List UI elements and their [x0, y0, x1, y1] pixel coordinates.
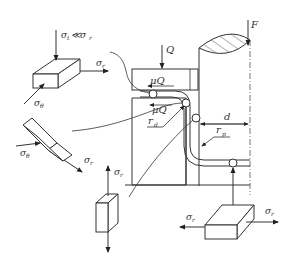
roller-bottom [229, 159, 237, 167]
svg-text:θ: θ [26, 152, 30, 159]
die [125, 98, 250, 185]
svg-text:r: r [89, 34, 93, 41]
svg-text:r: r [192, 216, 196, 223]
blank-holder [132, 69, 198, 90]
wall-element: σ r [96, 166, 124, 252]
svg-text:≪σ: ≪σ [71, 30, 87, 40]
svg-text:μQ: μQ [152, 104, 167, 115]
load-Q-arrow: Q [162, 44, 174, 68]
svg-text:r: r [90, 159, 94, 166]
flange-element: σ t ≪σ r σ r σ θ [24, 30, 108, 109]
punch-radius-label: r p [202, 124, 230, 146]
bottom-element: σ r σ r [180, 168, 278, 239]
svg-text:r: r [271, 210, 275, 217]
svg-text:θ: θ [40, 102, 44, 109]
svg-text:Q: Q [166, 44, 174, 55]
roller-top [149, 90, 157, 98]
roller-wall [192, 114, 200, 122]
svg-text:r: r [102, 62, 106, 69]
svg-text:t: t [67, 34, 70, 41]
roller-die-corner [182, 99, 190, 107]
clearance-dimension: d [200, 111, 248, 124]
svg-text:F: F [250, 19, 259, 30]
die-corner-element: σ θ σ r [16, 118, 94, 172]
svg-text:r: r [120, 171, 124, 178]
sheet-blank [140, 91, 250, 166]
svg-text:μQ: μQ [150, 75, 165, 86]
svg-text:d: d [224, 111, 230, 122]
deep-drawing-diagram: Q F μQ μQ r d d r p [0, 0, 292, 265]
friction-die-label: μQ [150, 104, 172, 115]
